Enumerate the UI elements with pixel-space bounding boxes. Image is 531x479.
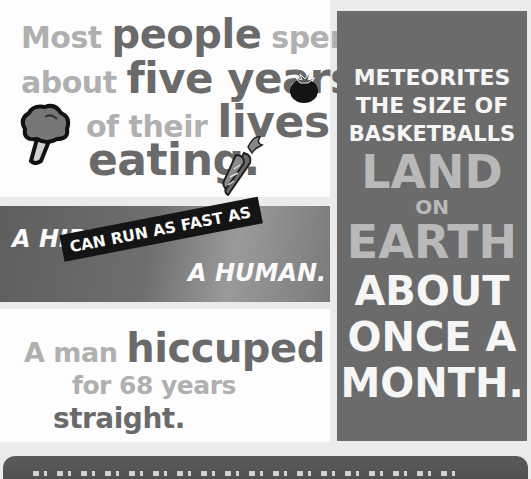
carrot-icon [218, 133, 268, 197]
fact-panel-hippo: A HIPPO CAN RUN AS FAST AS A HUMAN. [0, 206, 330, 302]
text-hiccuped: hiccuped [126, 325, 324, 371]
fact-panel-eating: Most people spend about five years of th… [0, 0, 330, 197]
hiccup-line-1: A man hiccuped [24, 328, 325, 368]
meteorites-line-7: ABOUT [337, 271, 527, 311]
text-about: about [21, 65, 126, 100]
meteorites-line-4: LAND [337, 149, 527, 195]
text-most: Most [21, 20, 112, 55]
text-people: people [112, 11, 262, 57]
meteorites-line-8: ONCE A [337, 317, 527, 357]
hippo-line-2: A HUMAN. [188, 259, 326, 287]
bottom-banner [3, 456, 528, 479]
eating-line-1: Most people spend [21, 14, 371, 54]
meteorites-line-5: ON [337, 197, 527, 217]
hiccup-line-2: for 68 years [72, 373, 236, 398]
text-a-man: A man [24, 337, 126, 368]
fact-panel-meteorites: METEORITES THE SIZE OF BASKETBALLS LAND … [337, 11, 527, 441]
meteorites-line-1: METEORITES [337, 67, 527, 89]
bottom-banner-text-partial [33, 471, 463, 476]
tomato-icon [288, 70, 320, 104]
hippo-band: CAN RUN AS FAST AS [59, 197, 263, 262]
meteorites-line-3: BASKETBALLS [337, 124, 527, 145]
fact-panel-hiccup: A man hiccuped for 68 years straight. [0, 309, 330, 442]
meteorites-line-2: THE SIZE OF [337, 95, 527, 117]
meteorites-line-6: EARTH [337, 219, 527, 265]
meteorites-line-9: MONTH. [337, 363, 527, 403]
broccoli-icon [17, 103, 71, 165]
hiccup-line-3: straight. [53, 405, 185, 433]
